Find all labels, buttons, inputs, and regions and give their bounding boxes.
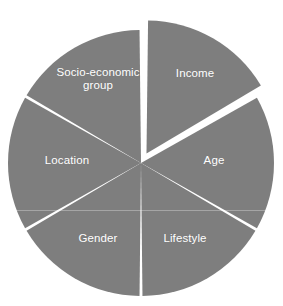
pie-chart: Income Age Lifestyle Gender Location Soc… (0, 0, 283, 306)
pie-slices-group (8, 20, 274, 296)
pie-chart-canvas (0, 0, 283, 306)
